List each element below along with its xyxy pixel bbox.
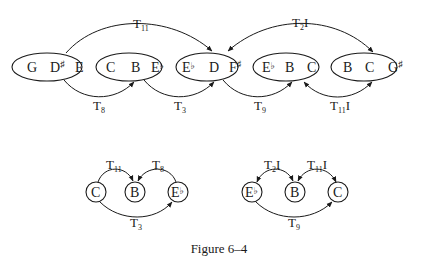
- arrow-t8-bl: T8: [138, 157, 176, 182]
- note: B: [285, 60, 294, 75]
- figure-6-4-diagram: G D♯ E C B E♭ E♭ D F♯ E♭ B C B: [0, 0, 438, 256]
- transform-label: T8: [93, 98, 105, 115]
- transform-label: T3: [130, 215, 142, 232]
- transform-label: T2I: [292, 15, 308, 32]
- transform-label: T11I: [307, 157, 327, 174]
- arc-line: [64, 80, 134, 97]
- arrow-t9: T9: [223, 80, 292, 115]
- arrow-t11-bl: T11: [98, 157, 133, 182]
- bottom-right-network: E♭ B C T2I T11I T9: [242, 157, 348, 232]
- transform-label: T3: [174, 98, 186, 115]
- note: B: [343, 60, 352, 75]
- arc-line: [144, 80, 214, 97]
- note: D♯: [50, 59, 65, 75]
- transform-label: T9: [254, 98, 266, 115]
- node-label: B: [290, 185, 299, 200]
- note: E♭: [151, 60, 164, 75]
- transform-label: T8: [152, 157, 164, 174]
- arc-line: [304, 82, 372, 97]
- arc-line: [223, 80, 292, 97]
- node-eb: E♭: [242, 182, 262, 202]
- note: B: [131, 60, 140, 75]
- node-label: E♭: [171, 185, 184, 200]
- arrow-t11-top: T11: [66, 16, 212, 53]
- arrow-t3-bl: T3: [100, 202, 172, 232]
- set-ellipse-5: B C G♯: [331, 53, 403, 81]
- note: G: [27, 60, 37, 75]
- note: G♯: [388, 59, 403, 75]
- set-ellipse-4: E♭ B C: [253, 53, 319, 81]
- top-row: G D♯ E C B E♭ E♭ D F♯ E♭ B C B: [12, 15, 403, 115]
- set-ellipse-2: C B E♭: [96, 53, 164, 81]
- node-label: C: [91, 185, 100, 200]
- arrow-t11i-br: T11I: [298, 157, 336, 182]
- node-eb: E♭: [168, 182, 188, 202]
- arrow-t11i: T11I: [304, 82, 372, 115]
- note: E♭: [262, 60, 275, 75]
- node-c: C: [86, 182, 106, 202]
- transform-label: T9: [288, 215, 300, 232]
- figure-caption: Figure 6–4: [191, 241, 248, 256]
- node-label: B: [130, 185, 139, 200]
- note: D: [209, 60, 219, 75]
- bottom-left-network: C B E♭ T11 T8 T3: [86, 157, 188, 232]
- set-ellipse-1: G D♯ E: [12, 53, 84, 81]
- note: C: [307, 60, 316, 75]
- arrow-t2i-br: T2I: [257, 157, 293, 182]
- set-ellipse-3: E♭ D F♯: [176, 53, 242, 81]
- arrow-t9-br: T9: [256, 202, 332, 232]
- note: C: [365, 60, 374, 75]
- arrow-t8: T8: [64, 80, 134, 115]
- arrow-t3: T3: [144, 80, 214, 115]
- note: C: [106, 60, 115, 75]
- note: F♯: [229, 59, 242, 75]
- arrow-t2i-top: T2I: [228, 15, 373, 52]
- note: E♭: [182, 60, 195, 75]
- transform-label: T2I: [264, 157, 280, 174]
- node-b: B: [125, 182, 145, 202]
- transform-label: T11I: [330, 98, 350, 115]
- node-b: B: [285, 182, 305, 202]
- node-label: C: [333, 185, 342, 200]
- note: E: [75, 60, 84, 75]
- transform-label: T11: [133, 16, 149, 33]
- node-c: C: [328, 182, 348, 202]
- node-label: E♭: [245, 185, 258, 200]
- transform-label: T11: [106, 157, 122, 174]
- ellipse-shape: [12, 53, 82, 81]
